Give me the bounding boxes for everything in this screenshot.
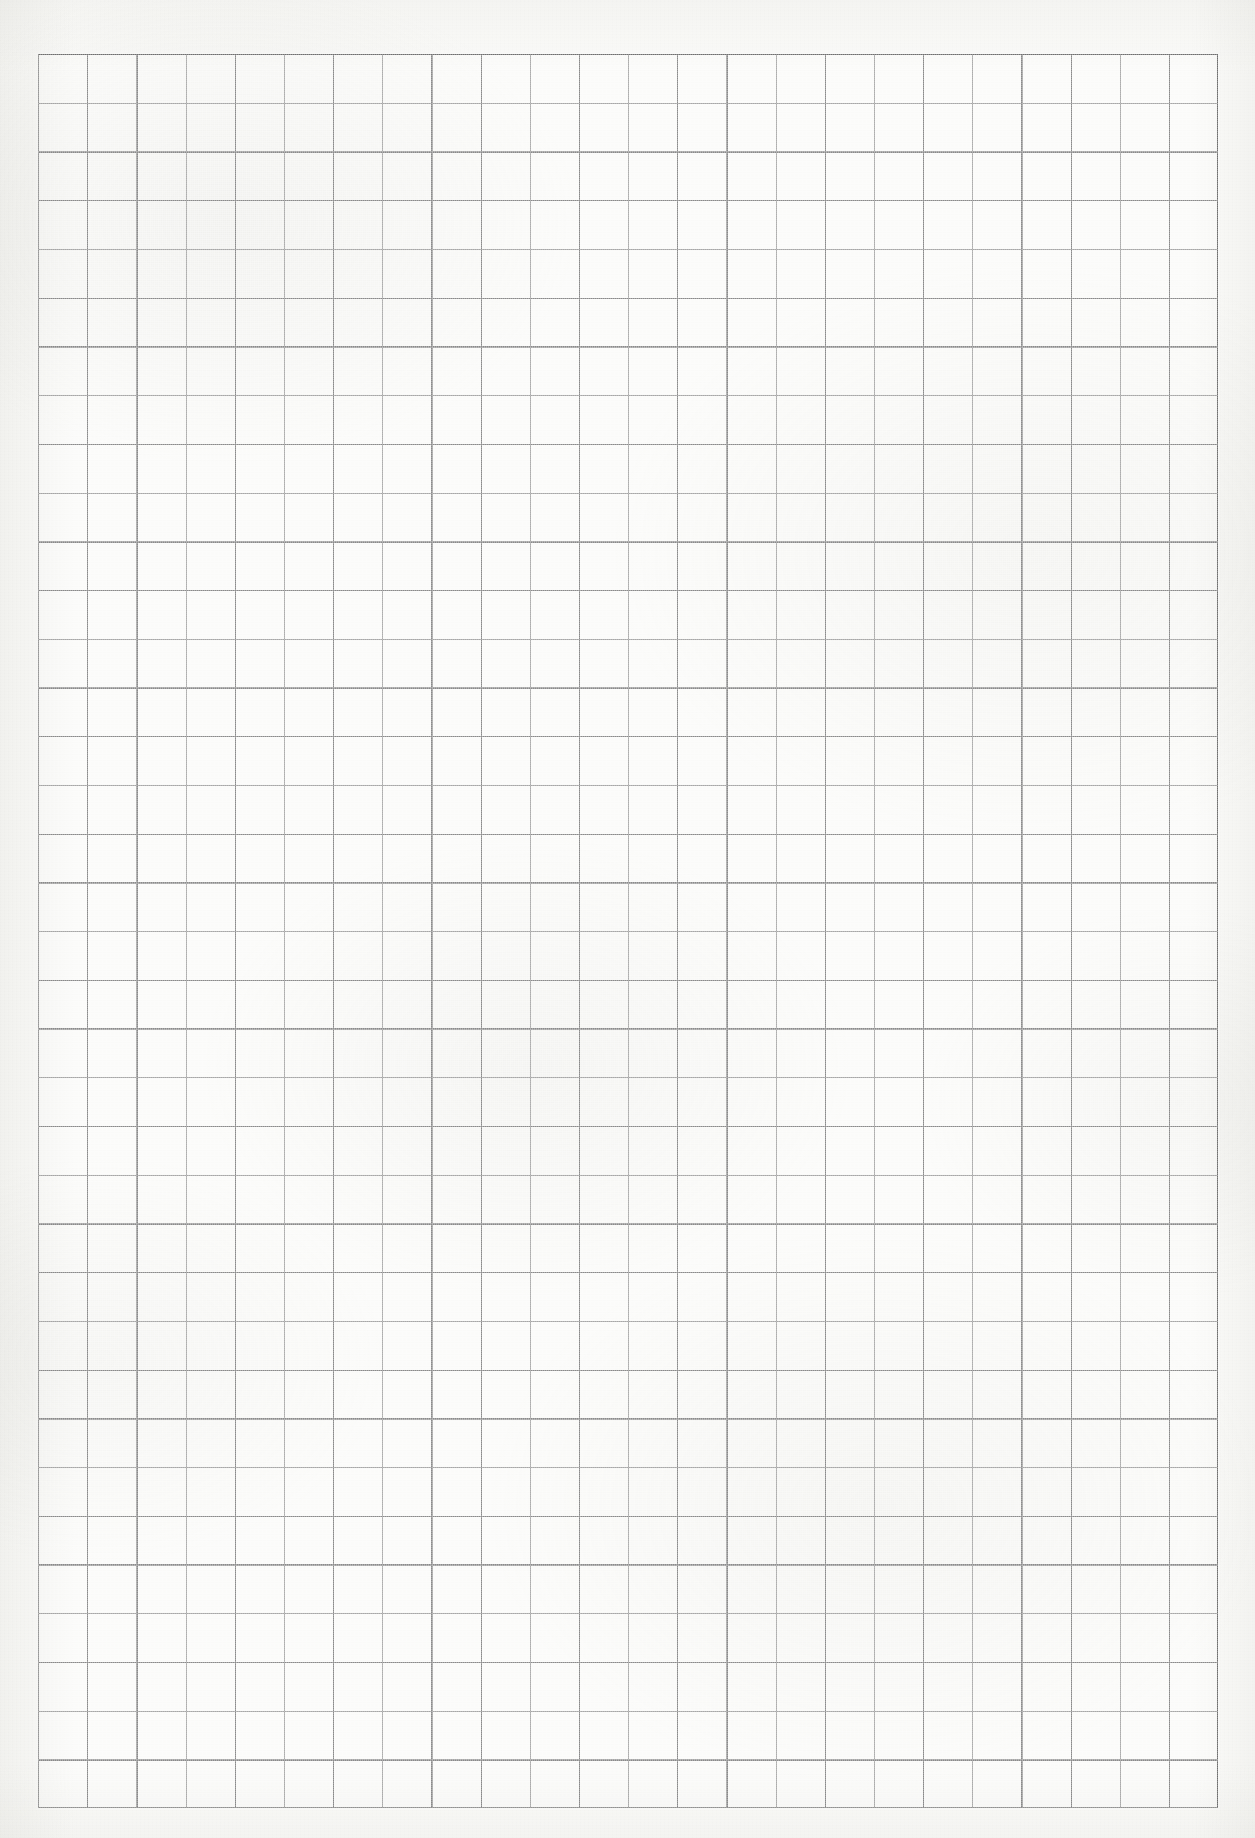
grid-line-horizontal	[38, 346, 1218, 347]
graph-paper-grid	[38, 54, 1218, 1808]
grid-line-horizontal	[38, 785, 1218, 786]
grid-line-horizontal	[38, 1662, 1218, 1663]
scanned-page: Appendix	[0, 0, 1255, 1838]
grid-line-horizontal	[38, 1223, 1218, 1224]
grid-line-horizontal	[38, 1175, 1218, 1176]
grid-line-horizontal	[38, 1321, 1218, 1322]
grid-line-horizontal	[38, 1467, 1218, 1468]
grid-line-horizontal	[38, 1272, 1218, 1273]
grid-line-horizontal	[38, 882, 1218, 883]
grid-line-horizontal	[38, 1516, 1218, 1517]
grid-line-layer	[38, 54, 1218, 1808]
grid-line-horizontal	[38, 151, 1218, 152]
grid-line-horizontal	[38, 54, 1218, 55]
grid-line-horizontal	[38, 687, 1218, 688]
grid-line-horizontal	[38, 200, 1218, 201]
grid-line-horizontal	[38, 493, 1218, 494]
grid-line-horizontal	[38, 541, 1218, 542]
grid-line-horizontal	[38, 1126, 1218, 1127]
grid-line-horizontal	[38, 1077, 1218, 1078]
grid-line-horizontal	[38, 1564, 1218, 1565]
grid-line-horizontal	[38, 590, 1218, 591]
grid-line-horizontal	[38, 980, 1218, 981]
grid-line-horizontal	[38, 1759, 1218, 1760]
grid-line-horizontal	[38, 834, 1218, 835]
grid-line-horizontal	[38, 639, 1218, 640]
grid-line-horizontal	[38, 1613, 1218, 1614]
grid-line-horizontal	[38, 395, 1218, 396]
grid-line-horizontal	[38, 1807, 1218, 1808]
cropped-heading-text: Appendix	[122, 0, 184, 9]
grid-line-horizontal	[38, 1028, 1218, 1029]
grid-line-horizontal	[38, 298, 1218, 299]
grid-line-horizontal	[38, 931, 1218, 932]
grid-line-horizontal	[38, 444, 1218, 445]
grid-line-horizontal	[38, 1418, 1218, 1419]
grid-line-horizontal	[38, 1370, 1218, 1371]
grid-line-horizontal	[38, 103, 1218, 104]
grid-line-horizontal	[38, 249, 1218, 250]
grid-line-horizontal	[38, 736, 1218, 737]
grid-line-horizontal	[38, 1711, 1218, 1712]
